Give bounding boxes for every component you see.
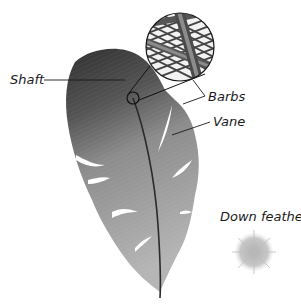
barbs-leader-line xyxy=(183,80,205,104)
down-feather-label: Down feather xyxy=(220,210,301,223)
feather-diagram: Shaft Barbs Vane Down feather xyxy=(0,0,301,308)
feather-illustration xyxy=(0,0,301,308)
contour-feather xyxy=(66,49,199,298)
shaft-label: Shaft xyxy=(10,73,44,86)
down-feather xyxy=(232,230,276,274)
vane-label: Vane xyxy=(213,115,245,128)
barbs-label: Barbs xyxy=(208,90,245,103)
